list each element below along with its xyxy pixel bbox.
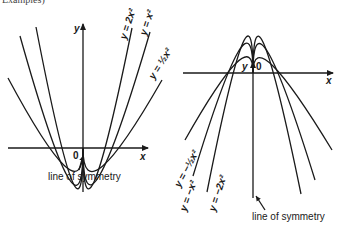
left-origin-label: 0 — [73, 150, 79, 161]
right-x-label: x — [325, 75, 332, 86]
right-annotation-arrow — [256, 196, 265, 210]
label-half-x-squared: y = ½x² — [146, 46, 174, 82]
label-x-squared: y = x² — [137, 8, 156, 38]
curve-half-x-squared — [8, 78, 162, 172]
left-x-label: x — [139, 151, 146, 162]
right-annotation: line of symmetry — [252, 211, 325, 222]
left-graph: y x 0 y = 2x² y = x² y = ½x² line of sym… — [8, 7, 174, 192]
right-origin-label: 0 — [256, 61, 262, 72]
right-graph: y 0 x y = −½x² y = −x² y = −2x² line of … — [172, 36, 333, 222]
left-annotation: line of symmetry — [48, 171, 121, 182]
right-y-label: y — [241, 61, 248, 72]
left-y-label: y — [73, 23, 80, 34]
parabola-diagram: y x 0 y = 2x² y = x² y = ½x² line of sym… — [0, 0, 340, 228]
curve-x-squared — [20, 32, 150, 185]
label-two-x-squared: y = 2x² — [117, 7, 138, 42]
